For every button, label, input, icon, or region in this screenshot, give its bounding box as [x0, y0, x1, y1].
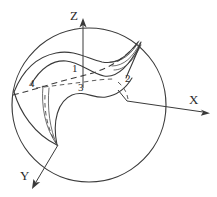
- y-axis-arrowhead: [32, 179, 40, 189]
- region-label-2: 2: [125, 72, 131, 84]
- nodal-plane-dashed-trace-left-limb: [45, 95, 56, 143]
- nodal-plane-dashed-trace-secondary: [36, 79, 114, 88]
- y-axis-label: Y: [20, 168, 30, 183]
- diagram-svg: Z X Y 1 2 3 4: [0, 0, 217, 197]
- x-axis-label: X: [189, 92, 199, 107]
- region-label-3: 3: [78, 81, 84, 93]
- figure-canvas: Z X Y 1 2 3 4: [0, 0, 217, 197]
- surface-left-outer-edge: [14, 92, 57, 145]
- region-label-1: 1: [72, 62, 78, 74]
- focal-sphere-outline: [12, 28, 166, 182]
- z-axis-label: Z: [70, 8, 78, 23]
- surface-lower-edge: [55, 78, 132, 145]
- region-label-4: 4: [29, 77, 35, 89]
- y-axis-group: [32, 145, 58, 189]
- surface-left-inner-edge: [43, 86, 57, 145]
- surface-upper-inner-edge: [31, 45, 140, 85]
- x-axis-arrowhead: [201, 110, 210, 116]
